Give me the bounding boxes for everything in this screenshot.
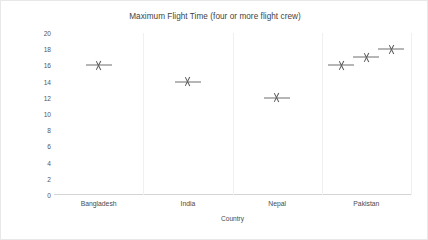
cross-icon <box>184 77 192 86</box>
category-separator <box>143 33 144 195</box>
category-separator <box>322 33 323 195</box>
data-point-marker[interactable] <box>175 77 201 86</box>
y-axis-tick-label: 16 <box>31 62 51 69</box>
x-axis-tick-label-bangladesh: Bangladesh <box>81 200 117 207</box>
plot-area <box>54 33 411 195</box>
y-axis-tick-label: 18 <box>31 46 51 53</box>
category-separator <box>233 33 234 195</box>
cross-icon <box>362 53 370 62</box>
y-axis-tick-labels: 20181614121086420 <box>31 33 51 195</box>
chart-container: Maximum Flight Time (four or more flight… <box>0 0 428 240</box>
x-axis-tick-label-pakistan: Pakistan <box>353 200 379 207</box>
y-axis-tick-label: 4 <box>31 159 51 166</box>
chart-title: Maximum Flight Time (four or more flight… <box>1 12 428 21</box>
cross-icon <box>337 61 345 70</box>
y-axis-tick-label: 6 <box>31 143 51 150</box>
y-axis-tick-label: 14 <box>31 78 51 85</box>
data-point-marker[interactable] <box>353 53 379 62</box>
cross-icon <box>387 45 395 54</box>
x-axis-title: Country <box>54 215 411 222</box>
cross-icon <box>273 93 281 102</box>
y-axis-tick-label: 10 <box>31 111 51 118</box>
category-separator <box>411 33 412 195</box>
y-axis-tick-label: 20 <box>31 30 51 37</box>
y-axis-tick-label: 2 <box>31 175 51 182</box>
data-point-marker[interactable] <box>264 93 290 102</box>
cross-icon <box>95 61 103 70</box>
x-axis-tick-label-india: India <box>181 200 196 207</box>
x-axis-tick-label-nepal: Nepal <box>268 200 286 207</box>
y-axis-tick-label: 12 <box>31 94 51 101</box>
data-point-marker[interactable] <box>86 61 112 70</box>
data-point-marker[interactable] <box>378 45 404 54</box>
y-axis-tick-label: 0 <box>31 192 51 199</box>
data-point-marker[interactable] <box>328 61 354 70</box>
y-axis-tick-label: 8 <box>31 127 51 134</box>
